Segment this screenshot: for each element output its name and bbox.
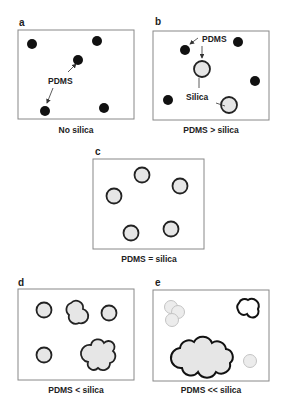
faint-silica-particle bbox=[244, 355, 257, 368]
silica-particle bbox=[221, 97, 237, 113]
panel-e: e PDMS << silica bbox=[153, 277, 269, 395]
pdms-particle bbox=[73, 55, 83, 65]
panel-caption: PDMS = silica bbox=[121, 254, 177, 264]
panel-label: a bbox=[19, 17, 25, 28]
panel-d: d PDMS < silica bbox=[18, 277, 134, 395]
panel-frame bbox=[153, 31, 269, 120]
panel-label: b bbox=[155, 16, 161, 27]
silica-particle bbox=[173, 179, 188, 194]
pdms-particle bbox=[99, 103, 109, 113]
pdms-particle bbox=[180, 45, 190, 55]
silica-particle bbox=[135, 168, 150, 183]
pdms-particle bbox=[163, 95, 173, 105]
panel-label: d bbox=[18, 277, 24, 288]
panel-b: b PDMS Silica PDMS > silica bbox=[153, 16, 269, 135]
pdms-particle bbox=[233, 37, 243, 47]
panel-label: c bbox=[95, 146, 101, 157]
silica-particle bbox=[164, 222, 179, 237]
silica-particle bbox=[37, 348, 52, 363]
silica-particle bbox=[102, 306, 117, 321]
silica-particle bbox=[107, 189, 122, 204]
panel-c: c PDMS = silica bbox=[93, 146, 204, 264]
pdms-particle bbox=[27, 39, 37, 49]
silica-particle bbox=[124, 226, 139, 241]
pdms-particle bbox=[40, 106, 50, 116]
panel-a: a PDMS No silica bbox=[18, 17, 134, 135]
silica-particle bbox=[37, 303, 52, 318]
silica-annotation: Silica bbox=[186, 92, 208, 102]
panel-caption: No silica bbox=[59, 125, 94, 135]
silica-pdms-diagram: a PDMS No silica b PDMS Silica PDMS > si… bbox=[0, 0, 285, 410]
silica-particle bbox=[194, 61, 210, 77]
pdms-annotation: PDMS bbox=[48, 76, 73, 86]
panel-caption: PDMS > silica bbox=[183, 125, 239, 135]
pdms-annotation: PDMS bbox=[202, 34, 227, 44]
panel-label: e bbox=[155, 277, 161, 288]
pdms-particle bbox=[92, 36, 102, 46]
panel-caption: PDMS < silica bbox=[48, 385, 104, 395]
pdms-particle bbox=[250, 76, 260, 86]
panel-caption: PDMS << silica bbox=[181, 385, 242, 395]
silica-doublet bbox=[237, 299, 258, 318]
